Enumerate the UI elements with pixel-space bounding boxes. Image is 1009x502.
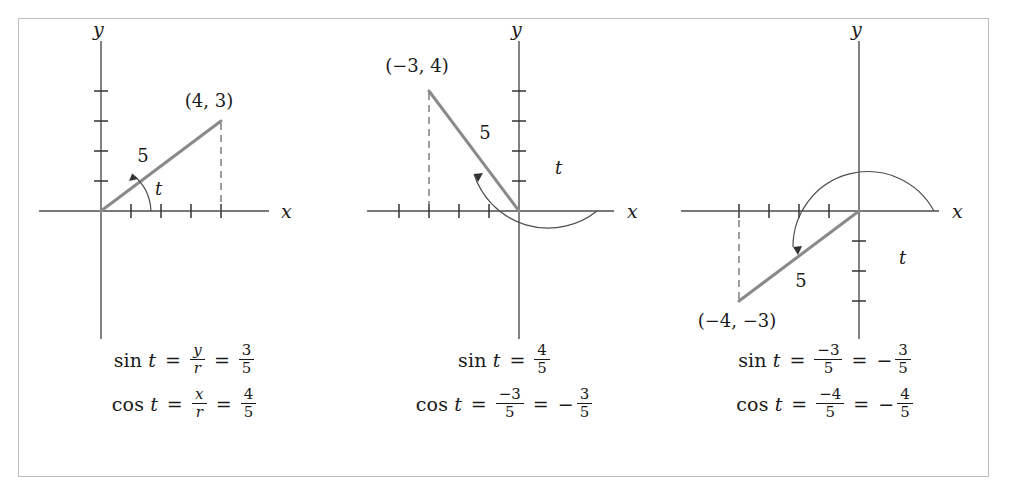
panel-quadrant-1: x y (4, 3) 5 t sin t = y r = 3 [19,19,349,478]
cosine-formula: cos t = −3 5 = − 3 5 [416,388,593,421]
radius-label: 5 [479,122,490,143]
equals-sign: = [158,395,192,414]
numerator: −3 [496,387,524,403]
negative-sign: − [878,395,897,414]
fraction: 4 5 [897,387,913,420]
numerator: 4 [897,387,913,403]
numerator: 4 [534,343,550,359]
fraction: 3 5 [239,343,255,376]
numerator: −4 [816,387,844,403]
angle-label: t [899,247,907,268]
fraction: 4 5 [241,387,257,420]
numerator: 3 [577,387,593,403]
equals-sign: = [207,395,241,414]
sine-fn-name: sin [738,351,767,370]
equals-sign: = [524,395,558,414]
denominator: 5 [577,404,593,420]
angle-label: t [155,178,163,199]
point-label: (−4, −3) [698,310,777,331]
angle-var: t [487,351,501,370]
equals-sign: = [500,351,534,370]
angle-var: t [142,351,156,370]
numerator: 4 [241,387,257,403]
fraction: x r [192,387,207,420]
denominator: 5 [241,404,257,420]
cosine-fn-name: cos [416,395,448,414]
equals-sign: = [780,351,814,370]
panel-3-formulas: sin t = −3 5 = − 3 5 cos t = [659,344,990,421]
panel-3-graph: x y (−4, −3) 5 t [659,19,990,349]
negative-sign: − [558,395,577,414]
fraction: 4 5 [534,343,550,376]
fraction: y r [190,343,205,376]
equals-sign: = [842,351,876,370]
denominator: 5 [823,404,839,420]
equals-sign: = [156,351,190,370]
cosine-formula: cos t = x r = 4 5 [112,388,256,421]
angle-label: t [555,157,563,178]
fraction: −3 5 [814,343,842,376]
x-axis-label: x [281,200,292,222]
panel-2-graph: x y (−3, 4) 5 t [349,19,659,349]
sine-fn-name: sin [114,351,143,370]
sine-formula: sin t = y r = 3 5 [114,344,255,377]
numerator: −3 [814,343,842,359]
x-axis-label: x [627,200,638,222]
panel-2-formulas: sin t = 4 5 cos t = −3 5 = − [349,344,659,421]
panel-1-graph: x y (4, 3) 5 t [19,19,349,349]
negative-sign: − [876,351,895,370]
angle-var: t [767,351,781,370]
equals-sign: = [462,395,496,414]
numerator: x [192,387,206,403]
fraction: 3 5 [577,387,593,420]
equals-sign: = [844,395,878,414]
radius-label: 5 [795,270,806,291]
cosine-fn-name: cos [112,395,144,414]
numerator: 3 [895,343,911,359]
cosine-fn-name: cos [736,395,768,414]
cosine-formula: cos t = −4 5 = − 4 5 [736,388,913,421]
y-axis-label: y [850,18,862,40]
angle-arc [474,174,597,228]
denominator: 5 [895,360,911,376]
y-axis-label: y [510,18,522,40]
denominator: r [191,360,204,376]
sine-formula: sin t = 4 5 [458,344,550,377]
numerator: 3 [239,343,255,359]
fraction: 3 5 [895,343,911,376]
angle-var: t [448,395,462,414]
sine-fn-name: sin [458,351,487,370]
denominator: 5 [821,360,837,376]
fraction: −4 5 [816,387,844,420]
denominator: 5 [239,360,255,376]
angle-var: t [769,395,783,414]
denominator: 5 [534,360,550,376]
point-label: (−3, 4) [385,55,448,76]
y-axis-label: y [92,18,104,40]
panel-quadrant-2: x y (−3, 4) 5 t sin t = 4 5 cos t [349,19,659,478]
angle-arc [793,172,934,247]
fraction: −3 5 [496,387,524,420]
equals-sign: = [205,351,239,370]
x-axis-label: x [952,200,963,222]
numerator: y [190,343,204,359]
denominator: r [193,404,206,420]
radius-label: 5 [137,145,148,166]
terminal-ray [429,91,519,211]
denominator: 5 [502,404,518,420]
equals-sign: = [782,395,816,414]
denominator: 5 [897,404,913,420]
sine-formula: sin t = −3 5 = − 3 5 [738,344,911,377]
panel-1-formulas: sin t = y r = 3 5 cos t = [19,344,349,421]
panel-quadrant-3: x y (−4, −3) 5 t sin t = −3 5 = − 3 [659,19,990,478]
figure-frame: x y (4, 3) 5 t sin t = y r = 3 [18,18,989,477]
angle-var: t [144,395,158,414]
point-label: (4, 3) [185,90,233,111]
